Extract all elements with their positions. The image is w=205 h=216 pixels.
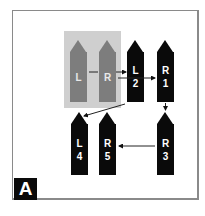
- arrow-box-to-l4: [84, 104, 125, 116]
- panel-label-badge: A: [14, 178, 37, 200]
